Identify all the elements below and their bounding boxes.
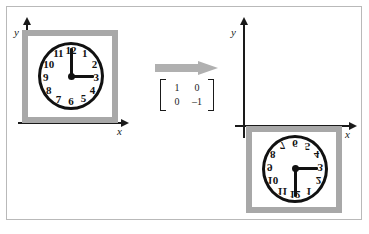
clock-center-pivot [292,166,299,173]
left-clock-frame: 12 1 2 3 4 5 6 7 8 9 10 11 [22,30,118,123]
clock-numeral-9: 9 [262,162,278,173]
matrix-values: 1 0 0 –1 [167,81,207,109]
clock-numeral-1: 1 [301,186,317,197]
left-clock-face: 12 1 2 3 4 5 6 7 8 9 10 11 [38,42,104,110]
right-y-axis-label: y [231,27,236,38]
clock-numeral-9: 9 [38,72,54,83]
right-y-axis-arrow-icon [240,17,248,25]
matrix-cell-r1c2: 0 [187,81,207,95]
matrix-cell-r2c2: –1 [187,95,207,109]
matrix-cell-r1c1: 1 [167,81,187,95]
clock-numeral-2: 2 [310,175,326,186]
clock-numeral-10: 10 [265,175,281,186]
clock-numeral-2: 2 [86,59,102,70]
transformation-figure: y x 12 1 2 3 4 5 6 7 8 9 10 11 [0,0,369,234]
arrow-head [198,61,218,75]
matrix-bracket-right [208,79,214,111]
left-x-axis-label: x [117,126,122,137]
left-x-axis-arrow-icon [121,119,129,127]
left-y-axis-arrow-icon [23,17,31,25]
transformation-matrix: 1 0 0 –1 [160,79,214,111]
right-x-axis-arrow-icon [349,122,357,130]
arrow-shaft [155,64,199,72]
matrix-cell-r2c1: 0 [167,95,187,109]
clock-numeral-1: 1 [77,48,93,59]
clock-numeral-10: 10 [41,59,57,70]
right-clock-face: 12 1 2 3 4 5 6 7 8 9 10 11 [262,135,328,203]
clock-minute-hand [294,169,297,197]
right-y-axis [243,25,245,138]
right-x-axis-label: x [345,129,350,140]
left-y-axis-label: y [14,27,19,38]
right-clock-frame: 12 1 2 3 4 5 6 7 8 9 10 11 [246,126,342,213]
clock-center-pivot [68,73,75,80]
clock-numeral-8: 8 [265,149,281,160]
right-arrow-icon [155,61,219,75]
matrix-bracket-left [160,79,166,111]
clock-minute-hand [70,48,73,76]
clock-numeral-8: 8 [41,85,57,96]
clock-numeral-11: 11 [50,48,66,59]
clock-numeral-11: 11 [274,186,290,197]
